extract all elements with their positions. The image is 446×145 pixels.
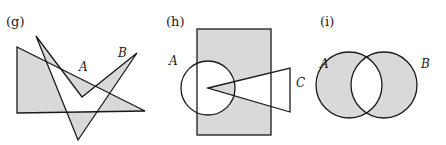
set-label-a: A	[319, 57, 329, 71]
panel-i-label: (i)	[320, 14, 334, 29]
set-label-a: A	[168, 54, 178, 68]
set-label-a: A	[78, 60, 88, 74]
set-label-b: B	[420, 57, 430, 71]
panel-g-label: (g)	[6, 14, 24, 29]
panel-i: (i) A B	[316, 14, 430, 118]
symmetric-difference-region	[316, 52, 417, 118]
set-label-c: C	[296, 76, 305, 90]
panel-h: (h) A C	[166, 14, 305, 135]
venn-diagrams-figure: (g) A B (h) A C (i) A B	[0, 0, 446, 145]
panel-g: (g) A B	[6, 14, 145, 140]
panel-h-label: (h)	[166, 14, 185, 29]
set-label-b: B	[117, 46, 127, 60]
